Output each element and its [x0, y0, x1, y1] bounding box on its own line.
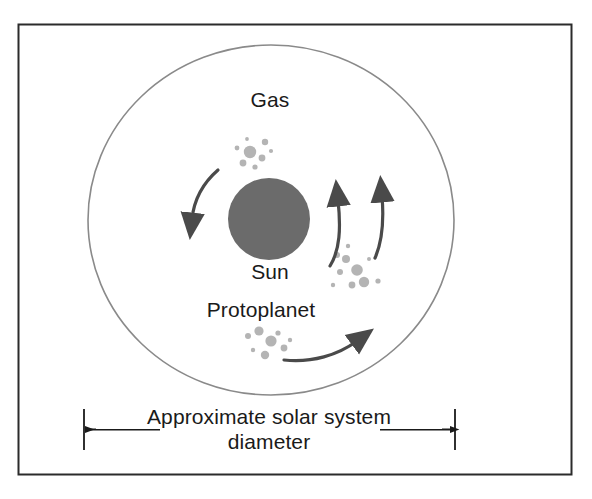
- particle-cluster-bottom: [245, 326, 292, 359]
- dimension-caption-line2: diameter: [96, 429, 442, 454]
- dimension-caption: Approximate solar system diameter: [96, 404, 442, 454]
- label-gas: Gas: [0, 88, 540, 112]
- arrow-bottom-right: [284, 341, 357, 361]
- figure-container: Gas Sun Protoplanet Approximate solar sy…: [0, 0, 592, 499]
- sun-disc: [228, 178, 310, 260]
- arrow-left-down: [192, 170, 218, 219]
- particle-cluster-top: [235, 137, 274, 169]
- dimension-caption-line1: Approximate solar system: [96, 404, 442, 429]
- arrow-outer-up: [375, 196, 383, 258]
- label-sun: Sun: [0, 260, 540, 284]
- label-protoplanet: Protoplanet: [0, 298, 522, 322]
